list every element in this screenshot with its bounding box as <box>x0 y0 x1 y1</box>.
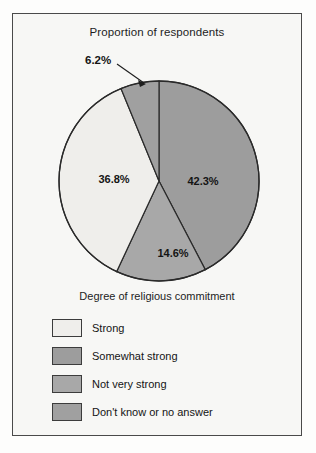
pie-label-not-very-strong: 14.6% <box>157 247 188 259</box>
figure-frame: Proportion of respondents 6.2% 42.3% <box>12 13 302 436</box>
legend-swatch-dont-know <box>52 403 82 421</box>
chart-legend: Strong Somewhat strong Not very strong D… <box>52 314 272 426</box>
callout-leader-line <box>117 64 144 83</box>
legend-item-not-very-strong[interactable]: Not very strong <box>52 370 272 398</box>
axis-caption: Degree of religious commitment <box>13 290 301 302</box>
figure-panel: Proportion of respondents 6.2% 42.3% <box>0 0 316 453</box>
legend-swatch-not-very-strong <box>52 375 82 393</box>
pie-label-somewhat-strong: 42.3% <box>187 175 218 187</box>
pie-chart-area: 6.2% 42.3% 14.6% 36.8% <box>13 14 303 314</box>
legend-item-strong[interactable]: Strong <box>52 314 272 342</box>
legend-label-strong: Strong <box>92 322 124 334</box>
pie-label-dont-know: 6.2% <box>85 54 111 66</box>
legend-item-dont-know[interactable]: Don't know or no answer <box>52 398 272 426</box>
legend-item-somewhat-strong[interactable]: Somewhat strong <box>52 342 272 370</box>
legend-swatch-somewhat-strong <box>52 347 82 365</box>
legend-label-somewhat-strong: Somewhat strong <box>92 350 178 362</box>
pie-chart-svg: 6.2% 42.3% 14.6% 36.8% <box>13 14 303 314</box>
pie-label-strong: 36.8% <box>98 173 129 185</box>
legend-label-not-very-strong: Not very strong <box>92 378 167 390</box>
legend-label-dont-know: Don't know or no answer <box>92 406 213 418</box>
legend-swatch-strong <box>52 319 82 337</box>
